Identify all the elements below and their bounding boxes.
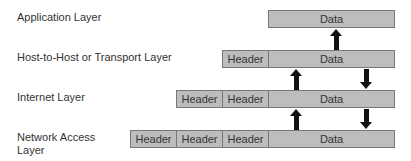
header-cell: Header xyxy=(177,131,223,147)
label-internet-layer: Internet Layer xyxy=(17,91,85,104)
label-network-access-line2: Layer xyxy=(17,144,95,157)
header-cell: Header xyxy=(177,91,223,107)
label-transport-layer: Host-to-Host or Transport Layer xyxy=(17,51,172,64)
label-network-access-line1: Network Access xyxy=(17,131,95,144)
header-cell: Header xyxy=(223,51,269,67)
network-access-packet: Header Header Header Data xyxy=(130,130,395,148)
internet-packet: Header Header Data xyxy=(176,90,395,108)
header-cell: Header xyxy=(131,131,177,147)
transport-packet: Header Data xyxy=(222,50,395,68)
header-cell: Header xyxy=(223,131,269,147)
data-cell: Data xyxy=(269,51,394,67)
data-cell: Data xyxy=(269,11,394,27)
data-cell: Data xyxy=(269,131,394,147)
label-network-access-layer: Network Access Layer xyxy=(17,131,95,157)
application-packet: Data xyxy=(268,10,395,28)
label-application-layer: Application Layer xyxy=(17,11,101,24)
header-cell: Header xyxy=(223,91,269,107)
data-cell: Data xyxy=(269,91,394,107)
